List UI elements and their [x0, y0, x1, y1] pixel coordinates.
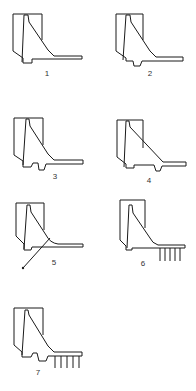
panel-label: 3 — [53, 172, 58, 181]
wall-outline — [16, 203, 83, 250]
panel-7: 7 — [14, 308, 82, 377]
wall-outline — [120, 200, 185, 250]
piles — [55, 356, 79, 368]
wall-outline — [14, 308, 82, 361]
panel-3: 3 — [14, 118, 83, 181]
piles — [160, 248, 180, 261]
panel-6: 6 — [120, 200, 185, 268]
panel-label: 7 — [36, 368, 41, 377]
panel-label: 6 — [141, 259, 146, 268]
anchor-tie — [23, 238, 50, 268]
anchor-point — [22, 267, 24, 269]
retaining-wall-diagram: 1 2 3 4 5 6 — [0, 0, 196, 391]
panel-label: 1 — [45, 69, 50, 78]
panel-label: 2 — [148, 69, 153, 78]
panel-label: 4 — [147, 176, 152, 185]
wall-outline — [13, 14, 82, 63]
wall-outline — [14, 118, 83, 170]
panel-2: 2 — [116, 14, 183, 78]
wall-outline — [117, 120, 186, 171]
wall-outline — [116, 14, 183, 66]
panel-1: 1 — [13, 14, 82, 78]
panel-4: 4 — [117, 120, 186, 185]
panel-5: 5 — [16, 203, 83, 269]
panel-label: 5 — [52, 258, 57, 267]
